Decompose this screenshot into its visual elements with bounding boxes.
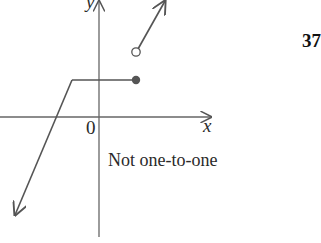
caption: Not one-to-one: [108, 150, 217, 171]
problem-number: 37: [302, 30, 321, 52]
left-ray: [15, 80, 72, 215]
x-axis-label: x: [203, 115, 211, 137]
closed-dot: [132, 76, 140, 84]
upper-ray: [138, 1, 165, 49]
y-axis-label: y: [86, 0, 94, 13]
origin-label: 0: [86, 117, 96, 139]
open-dot: [132, 48, 140, 56]
